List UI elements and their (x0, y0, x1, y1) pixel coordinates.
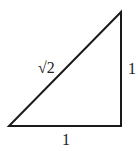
vertical-leg-label: 1 (128, 60, 136, 77)
triangle-shape (9, 12, 121, 126)
right-triangle-diagram: √2 1 1 (0, 0, 138, 151)
hypotenuse-label: √2 (38, 59, 55, 76)
horizontal-leg-label: 1 (62, 131, 70, 148)
